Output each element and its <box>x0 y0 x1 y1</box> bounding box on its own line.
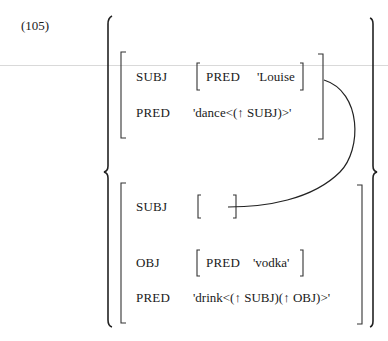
lower-pred-label: PRED <box>136 291 170 305</box>
left-set-brace <box>104 16 112 327</box>
lower-obj-label: OBJ <box>136 256 160 270</box>
lower-subj-label: SUBJ <box>136 200 167 214</box>
upper-left-bracket <box>121 52 126 138</box>
upper-pred-label: PRED <box>136 106 170 120</box>
upper-subj-label: SUBJ <box>136 70 167 84</box>
lower-obj-pred-value: 'vodka' <box>253 256 289 270</box>
upper-subj-pred-value: 'Louise <box>257 70 295 84</box>
shared-subj-arc <box>228 80 355 207</box>
lower-right-bracket <box>357 185 362 324</box>
upper-right-bracket <box>318 54 323 139</box>
upper-pred-value: 'dance<(↑ SUBJ)>' <box>193 106 291 120</box>
louise-left-bracket <box>197 63 200 90</box>
lower-obj-pred-label: PRED <box>206 256 240 270</box>
example-number: (105) <box>21 19 49 33</box>
upper-subj-pred-label: PRED <box>206 70 240 84</box>
vodka-left-bracket <box>197 250 200 276</box>
louise-right-bracket <box>300 63 303 90</box>
lower-pred-value: 'drink<(↑ SUBJ)(↑ OBJ)>' <box>193 291 330 305</box>
right-set-brace <box>370 18 377 327</box>
lower-left-bracket <box>121 183 126 323</box>
vodka-right-bracket <box>300 250 303 276</box>
empty-subj-left-bracket <box>198 195 201 218</box>
